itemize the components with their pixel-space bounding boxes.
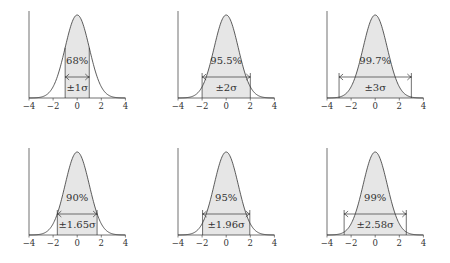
panel-6: −4−202499%±2.58σ	[321, 148, 426, 248]
interval-label: ±2σ	[215, 82, 237, 93]
x-tick-label: 2	[248, 101, 253, 111]
x-tick-label: 2	[397, 101, 402, 111]
x-tick-label: 2	[99, 101, 104, 111]
percent-label: 99%	[364, 192, 386, 203]
interval-label: ±1σ	[66, 82, 88, 93]
x-tick-label: −4	[23, 238, 36, 248]
x-tick-label: 0	[74, 238, 79, 248]
x-tick-label: 0	[372, 101, 377, 111]
x-tick-label: −4	[321, 101, 334, 111]
x-tick-label: −2	[196, 101, 209, 111]
percent-label: 90%	[66, 192, 88, 203]
x-tick-label: −4	[172, 101, 185, 111]
x-tick-label: −2	[345, 101, 358, 111]
x-tick-label: −4	[321, 238, 334, 248]
figure-canvas: −4−202468%±1σ−4−202495.5%±2σ−4−202499.7%…	[0, 0, 450, 263]
x-tick-label: 2	[99, 238, 104, 248]
x-tick-label: 0	[223, 238, 228, 248]
x-tick-label: 4	[272, 101, 277, 111]
interval-label: ±3σ	[364, 82, 386, 93]
panel-2: −4−202495.5%±2σ	[172, 11, 277, 111]
normal-distribution-grid: −4−202468%±1σ−4−202495.5%±2σ−4−202499.7%…	[0, 0, 450, 263]
x-tick-label: −2	[47, 238, 60, 248]
x-tick-label: −2	[196, 238, 209, 248]
percent-label: 95.5%	[210, 55, 242, 66]
panel-3: −4−202499.7%±3σ	[321, 11, 426, 111]
interval-label: ±2.58σ	[356, 219, 394, 230]
x-tick-label: 2	[397, 238, 402, 248]
x-tick-label: 4	[123, 101, 128, 111]
panel-5: −4−202495%±1.96σ	[172, 148, 277, 248]
x-tick-label: 0	[74, 101, 79, 111]
x-tick-label: 0	[372, 238, 377, 248]
x-tick-label: −2	[47, 101, 60, 111]
x-tick-label: 4	[123, 238, 128, 248]
interval-label: ±1.96σ	[207, 219, 245, 230]
panel-4: −4−202490%±1.65σ	[23, 148, 128, 248]
x-tick-label: −2	[345, 238, 358, 248]
percent-label: 95%	[215, 192, 237, 203]
x-tick-label: 4	[421, 101, 426, 111]
interval-label: ±1.65σ	[58, 219, 96, 230]
x-tick-label: 4	[421, 238, 426, 248]
percent-label: 99.7%	[359, 55, 391, 66]
x-tick-label: 0	[223, 101, 228, 111]
x-tick-label: −4	[172, 238, 185, 248]
percent-label: 68%	[66, 55, 88, 66]
x-tick-label: −4	[23, 101, 36, 111]
x-tick-label: 4	[272, 238, 277, 248]
x-tick-label: 2	[248, 238, 253, 248]
panel-1: −4−202468%±1σ	[23, 11, 128, 111]
